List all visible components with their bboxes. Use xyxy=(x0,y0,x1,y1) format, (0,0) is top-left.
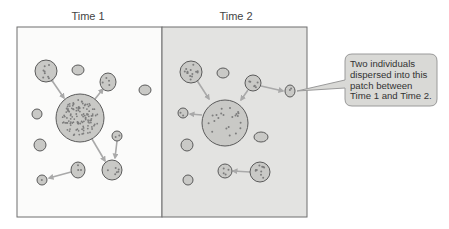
individual-dot xyxy=(87,121,89,123)
individual-dot xyxy=(192,64,194,66)
individual-dot xyxy=(64,122,66,124)
individual-dot xyxy=(64,116,66,118)
habitat-patch xyxy=(178,108,188,118)
individual-dot xyxy=(85,117,87,119)
habitat-patch xyxy=(71,162,85,178)
individual-dot xyxy=(88,115,90,117)
habitat-patch xyxy=(217,68,229,78)
individual-dot xyxy=(73,118,75,120)
individual-dot xyxy=(220,113,222,115)
individual-dot xyxy=(79,107,81,109)
habitat-patch xyxy=(285,85,295,97)
individual-dot xyxy=(115,167,117,169)
individual-dot xyxy=(108,84,110,86)
individual-dot xyxy=(118,169,120,171)
individual-dot xyxy=(87,119,89,121)
habitat-patch xyxy=(180,61,202,83)
individual-dot xyxy=(87,132,89,134)
individual-dot xyxy=(105,77,107,79)
individual-dot xyxy=(78,134,80,136)
individual-dot xyxy=(253,85,255,87)
individual-dot xyxy=(223,172,225,174)
individual-dot xyxy=(77,164,79,166)
individual-dot xyxy=(260,174,262,176)
individual-dot xyxy=(248,80,250,82)
individual-dot xyxy=(69,103,71,105)
individual-dot xyxy=(67,129,69,131)
individual-dot xyxy=(77,169,79,171)
habitat-patch xyxy=(32,109,42,119)
metapopulation-diagram xyxy=(0,0,449,229)
habitat-patch xyxy=(56,94,104,142)
individual-dot xyxy=(82,116,84,118)
individual-dot xyxy=(69,128,71,130)
individual-dot xyxy=(70,118,72,120)
individual-dot xyxy=(180,112,182,114)
individual-dot xyxy=(71,116,73,118)
individual-dot xyxy=(81,121,83,123)
individual-dot xyxy=(41,179,43,181)
individual-dot xyxy=(88,110,90,112)
habitat-patch xyxy=(254,132,268,142)
individual-dot xyxy=(86,104,88,106)
individual-dot xyxy=(76,115,78,117)
individual-dot xyxy=(77,99,79,101)
habitat-patch xyxy=(181,139,193,151)
individual-dot xyxy=(235,114,237,116)
individual-dot xyxy=(94,108,96,110)
individual-dot xyxy=(67,110,69,112)
individual-dot xyxy=(88,103,90,105)
individual-dot xyxy=(67,104,69,106)
individual-dot xyxy=(217,117,219,119)
individual-dot xyxy=(88,106,90,108)
habitat-patch xyxy=(100,73,116,91)
individual-dot xyxy=(69,130,71,132)
individual-dot xyxy=(114,173,116,175)
individual-dot xyxy=(92,108,94,110)
individual-dot xyxy=(66,108,68,110)
individual-dot xyxy=(118,135,120,137)
individual-dot xyxy=(237,115,239,117)
individual-dot xyxy=(90,119,92,121)
habitat-patch xyxy=(112,131,122,141)
habitat-patch xyxy=(37,175,47,185)
habitat-patch xyxy=(34,139,46,151)
individual-dot xyxy=(79,111,81,113)
individual-dot xyxy=(216,114,218,116)
individual-dot xyxy=(70,113,72,115)
individual-dot xyxy=(82,126,84,128)
individual-dot xyxy=(83,113,85,115)
individual-dot xyxy=(235,132,237,134)
individual-dot xyxy=(184,71,186,73)
individual-dot xyxy=(115,136,117,138)
individual-dot xyxy=(223,168,225,170)
individual-dot xyxy=(92,113,94,115)
individual-dot xyxy=(75,113,77,115)
individual-dot xyxy=(71,122,73,124)
individual-dot xyxy=(223,114,225,116)
individual-dot xyxy=(76,107,78,109)
individual-dot xyxy=(263,167,265,169)
individual-dot xyxy=(79,123,81,125)
callout-text: Two individuals dispersed into this patc… xyxy=(350,59,438,102)
individual-dot xyxy=(225,174,227,176)
callout-line: dispersed into this xyxy=(350,70,438,81)
individual-dot xyxy=(72,102,74,104)
individual-dot xyxy=(43,69,45,71)
individual-dot xyxy=(229,107,231,109)
habitat-patch xyxy=(202,100,248,146)
individual-dot xyxy=(229,135,231,137)
individual-dot xyxy=(82,103,84,105)
individual-dot xyxy=(96,114,98,116)
individual-dot xyxy=(190,69,192,71)
individual-dot xyxy=(47,76,49,78)
habitat-patch xyxy=(35,60,57,82)
individual-dot xyxy=(190,78,192,80)
habitat-patch xyxy=(245,75,261,91)
individual-dot xyxy=(72,105,74,107)
individual-dot xyxy=(240,122,242,124)
individual-dot xyxy=(197,72,199,74)
individual-dot xyxy=(73,134,75,136)
individual-dot xyxy=(87,114,89,116)
individual-dot xyxy=(70,124,72,126)
